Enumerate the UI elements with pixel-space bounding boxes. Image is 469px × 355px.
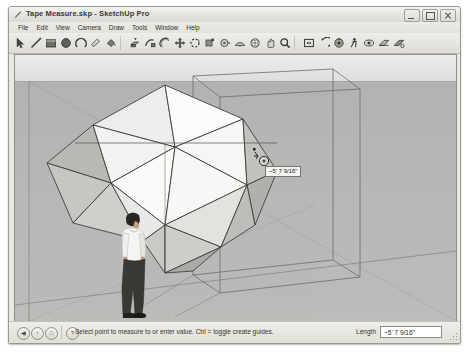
select-arrow-tool-icon[interactable] <box>13 35 28 51</box>
paint-bucket-tool-icon[interactable] <box>103 35 118 51</box>
menu-item-tools[interactable]: Tools <box>128 22 151 33</box>
resize-grip[interactable] <box>448 331 458 341</box>
previous-help-glyph: ◀ <box>18 328 29 339</box>
pencil-icon <box>14 10 23 19</box>
toolbar-separator-2 <box>294 36 299 50</box>
section-plane-tool-icon[interactable] <box>376 35 391 51</box>
scale-tool-icon[interactable] <box>202 35 217 51</box>
title-bar[interactable]: Tape Measure.skp - SketchUp Pro <box>9 7 460 23</box>
model-geometry <box>15 55 456 321</box>
protractor-tool-icon[interactable] <box>232 35 247 51</box>
menu-item-draw[interactable]: Draw <box>105 22 128 33</box>
zoom-tool-icon[interactable] <box>277 35 292 51</box>
statusbar-separator <box>61 326 62 339</box>
instructor-glyph: ↑ <box>32 328 43 339</box>
instructor-button[interactable]: ↑ <box>31 327 44 340</box>
section-display-tool-icon[interactable] <box>391 35 406 51</box>
window-controls <box>404 9 456 22</box>
rotate-tool-icon[interactable] <box>187 35 202 51</box>
minimize-button[interactable] <box>404 9 420 22</box>
zoom-extents-tool-icon[interactable] <box>301 35 316 51</box>
tape-measure-tool-icon[interactable] <box>217 35 232 51</box>
length-input[interactable]: ~5' 7 9/16" <box>380 326 442 338</box>
length-value: ~5' 7 9/16" <box>384 328 415 338</box>
next-help-glyph: □ <box>46 328 57 339</box>
pan-tool-icon[interactable] <box>262 35 277 51</box>
menu-item-help[interactable]: Help <box>182 22 203 33</box>
menu-item-camera[interactable]: Camera <box>74 22 105 33</box>
menu-item-file[interactable]: File <box>14 22 32 33</box>
maximize-button[interactable] <box>422 9 438 22</box>
line-tool-icon[interactable] <box>28 35 43 51</box>
followme-tool-icon[interactable] <box>142 35 157 51</box>
main-toolbar <box>9 33 460 54</box>
rectangle-tool-icon[interactable] <box>43 35 58 51</box>
position-camera-tool-icon[interactable] <box>331 35 346 51</box>
application-window: Tape Measure.skp - SketchUp Pro File Edi… <box>8 6 461 344</box>
status-bar: ◀ ↑ □ ? Select point to measure to or en… <box>9 321 460 343</box>
arc-tool-icon[interactable] <box>73 35 88 51</box>
toolbar-separator-1 <box>120 36 125 50</box>
sketchup-application: Tape Measure.skp - SketchUp Pro File Edi… <box>0 0 469 355</box>
menu-item-edit[interactable]: Edit <box>32 22 51 33</box>
length-label: Length <box>356 328 376 335</box>
pushpull-tool-icon[interactable] <box>127 35 142 51</box>
previous-help-button[interactable]: ◀ <box>17 327 30 340</box>
model-viewport[interactable]: ~5' 7 9/16" <box>14 54 457 322</box>
window-title: Tape Measure.skp - SketchUp Pro <box>26 9 149 18</box>
measurement-value-label: ~5' 7 9/16" <box>265 166 301 177</box>
status-message: Select point to measure to or enter valu… <box>75 328 274 335</box>
menu-item-window[interactable]: Window <box>151 22 182 33</box>
offset-tool-icon[interactable] <box>157 35 172 51</box>
walk-tool-icon[interactable] <box>346 35 361 51</box>
circle-tool-icon[interactable] <box>58 35 73 51</box>
move-tool-icon[interactable] <box>172 35 187 51</box>
menu-item-view[interactable]: View <box>52 22 74 33</box>
previous-view-tool-icon[interactable] <box>316 35 331 51</box>
eraser-tool-icon[interactable] <box>88 35 103 51</box>
orbit-tool-icon[interactable] <box>247 35 262 51</box>
next-help-button[interactable]: □ <box>45 327 58 340</box>
look-around-tool-icon[interactable] <box>361 35 376 51</box>
icosahedron-model <box>47 85 277 273</box>
close-button[interactable] <box>440 9 456 22</box>
